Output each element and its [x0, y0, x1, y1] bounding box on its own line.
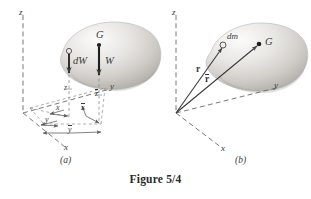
axis-x-label-b: x [221, 144, 225, 153]
mass-element-marker-a [66, 48, 71, 53]
point-G-label-a: G [96, 30, 104, 41]
axis-x-label-a: x [64, 143, 68, 152]
panel-b-id: (b) [235, 156, 246, 166]
mass-element-marker-b [220, 42, 226, 48]
dim-x-label-a: x [56, 104, 60, 112]
dim-y-label-a: y [45, 116, 49, 124]
axis-x-a [23, 113, 65, 147]
dim-x-bar-arrow-down [86, 116, 99, 123]
dim-z-bar-text: z [95, 90, 98, 98]
dim-y-bar-text: y [68, 126, 72, 134]
dim-x-bar-text: x [81, 104, 85, 112]
base-line-right-a [101, 88, 105, 124]
axis-y-label-b: y [274, 81, 278, 90]
figure-graphics [0, 0, 311, 199]
panel-a-id: (a) [60, 156, 71, 166]
point-G-label-b: G [265, 37, 273, 48]
figure-caption: Figure 5/4 [0, 173, 311, 185]
vector-r-bar-text: r [205, 75, 209, 85]
dim-z-label-a: z [64, 84, 67, 92]
dim-y-arrow-right [41, 125, 58, 126]
dim-y-arrow-left [41, 121, 57, 125]
force-dW-label: dW [73, 56, 87, 67]
dim-x-arrow-right [50, 114, 68, 116]
dim-y-bar-arrow-right [72, 132, 101, 133]
force-W-label: W [105, 56, 114, 67]
vector-r-label: r [196, 65, 200, 75]
axis-y-label-a: y [110, 82, 114, 91]
figure-container: z y x G dW W z z x y x y (a) z y x dm G … [0, 0, 311, 199]
dim-x-bar-label-a: x [81, 104, 85, 112]
axis-z-label-a: z [19, 8, 23, 17]
center-of-gravity-marker-b [257, 42, 262, 47]
mass-element-label-b: dm [227, 32, 238, 41]
dim-y-bar-label-a: y [68, 126, 72, 134]
center-of-gravity-marker-a [97, 43, 101, 47]
vector-r-bar-label: r [205, 75, 209, 85]
panel-b-graphics [176, 15, 308, 148]
base-line-top-a [30, 88, 105, 108]
axis-z-label-b: z [172, 8, 176, 17]
axis-x-b [176, 113, 222, 148]
panel-a-graphics [23, 15, 161, 147]
dim-z-bar-label-a: z [95, 90, 98, 98]
